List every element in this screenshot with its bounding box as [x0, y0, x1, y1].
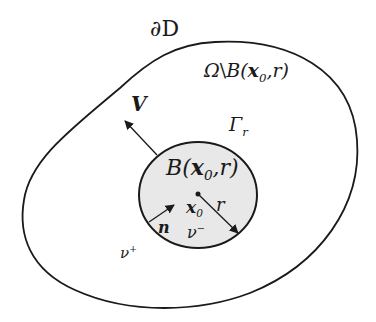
nu-minus-sup: − — [197, 223, 205, 234]
center-label: x0 — [186, 199, 203, 216]
normal-label: n — [158, 220, 170, 236]
nu-plus-label: ν+ — [120, 246, 137, 261]
omega-symbol: Ω — [204, 59, 220, 81]
interface-sub: r — [242, 125, 248, 139]
radius-text: r — [216, 194, 225, 215]
velocity-text: V — [131, 92, 147, 116]
ball-x-text: x — [191, 154, 204, 180]
velocity-arrow — [125, 121, 157, 155]
center-sub: 0 — [196, 207, 203, 219]
ball-sub: 0 — [204, 167, 213, 183]
radius-label: r — [216, 196, 225, 214]
nu-minus-symbol: ν — [187, 223, 197, 242]
center-x-text: x — [186, 197, 196, 217]
boundary-label: ∂D — [150, 18, 179, 40]
interface-label: Γr — [229, 115, 248, 134]
nu-plus-sup: + — [129, 243, 137, 254]
nu-plus-symbol: ν — [120, 244, 129, 262]
region-label: Ω\B(x0,r) — [204, 61, 289, 80]
normal-text: n — [158, 218, 170, 237]
gamma-symbol: Γ — [229, 113, 242, 135]
region-rest-text: ,r) — [266, 59, 289, 81]
diagram: ∂D Ω\B(x0,r) V Γr B(x0,r) x0 r n ν− ν+ — [0, 0, 376, 322]
velocity-label: V — [131, 94, 147, 114]
region-x-text: x — [248, 59, 259, 81]
ball-rest-text: ,r) — [213, 155, 239, 180]
boundary-text: ∂D — [150, 16, 179, 41]
ball-b-text: B( — [166, 155, 191, 180]
ball-label: B(x0,r) — [166, 156, 239, 179]
region-b-text: B( — [226, 59, 247, 81]
nu-minus-label: ν− — [187, 225, 205, 241]
